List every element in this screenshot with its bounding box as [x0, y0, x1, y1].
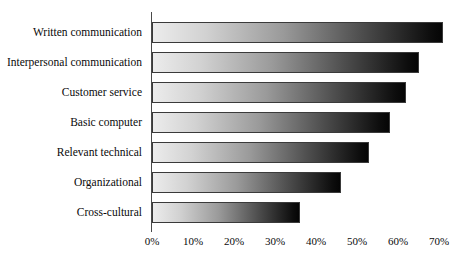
bar [152, 172, 341, 193]
category-label: Relevant technical [0, 142, 146, 163]
category-label: Interpersonal communication [0, 52, 146, 73]
x-tick-label: 50% [347, 234, 367, 248]
category-axis-labels: Written communicationInterpersonal commu… [0, 12, 146, 232]
x-tick-label: 20% [224, 234, 244, 248]
bar-row [152, 52, 446, 73]
x-tick-label: 0% [145, 234, 160, 248]
bar [152, 82, 406, 103]
category-label: Customer service [0, 82, 146, 103]
category-label: Basic computer [0, 112, 146, 133]
category-label: Organizational [0, 172, 146, 193]
bar [152, 22, 443, 43]
bar-row [152, 112, 446, 133]
category-label: Cross-cultural [0, 202, 146, 223]
bar-row [152, 142, 446, 163]
x-tick-label: 30% [265, 234, 285, 248]
plot-area [152, 12, 446, 232]
x-tick-label: 70% [429, 234, 449, 248]
bar-row [152, 82, 446, 103]
bar-chart: Written communicationInterpersonal commu… [0, 0, 469, 261]
x-axis-labels: 0%10%20%30%40%50%60%70% [152, 234, 446, 250]
bar-row [152, 172, 446, 193]
x-tick-label: 40% [306, 234, 326, 248]
category-label: Written communication [0, 22, 146, 43]
x-tick-label: 60% [388, 234, 408, 248]
bar [152, 112, 390, 133]
bar-row [152, 22, 446, 43]
bar [152, 52, 419, 73]
bar [152, 202, 300, 223]
bar [152, 142, 369, 163]
x-tick-label: 10% [183, 234, 203, 248]
bar-row [152, 202, 446, 223]
